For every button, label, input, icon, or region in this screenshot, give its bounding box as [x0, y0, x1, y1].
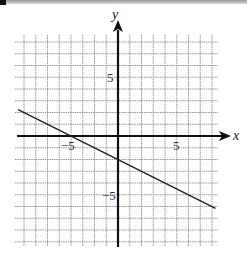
y-axis-label: y: [110, 7, 119, 22]
grid-lines: [15, 35, 218, 246]
y-tick-label-5: 5: [107, 70, 114, 85]
y-tick-label-neg5: −5: [102, 188, 116, 203]
x-tick-label-neg5: −5: [61, 138, 75, 153]
x-axis-label: x: [232, 128, 240, 143]
x-tick-label-5: 5: [173, 138, 180, 153]
coordinate-plane: x y −5 5 5 −5: [0, 0, 247, 253]
